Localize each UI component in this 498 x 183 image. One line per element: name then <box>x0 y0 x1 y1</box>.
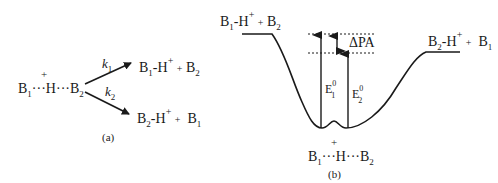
energy-label-e2: E02 <box>352 84 362 105</box>
caption-a: (a) <box>102 131 114 143</box>
energy-label-e1: E01 <box>325 79 335 100</box>
rate-label-k2: k2 <box>105 84 115 102</box>
right-state-label: B2-H+ + B1 <box>428 30 492 52</box>
rate-label-k1: k1 <box>102 56 112 74</box>
product-2: B2-H+ + B1 <box>137 107 201 129</box>
proton-charge-a: + <box>41 68 47 80</box>
left-state-label: B1-H+ + B2 <box>220 10 281 32</box>
product-1: B1-H+ + B2 <box>139 56 200 78</box>
delta-pa-label: ΔPA <box>349 36 375 50</box>
well-complex-label: B1···H···B2 <box>308 150 374 167</box>
reactant-complex-a: B1···H···B2 <box>18 82 84 99</box>
caption-b: (b) <box>328 168 341 180</box>
proton-charge-b: + <box>331 136 337 148</box>
